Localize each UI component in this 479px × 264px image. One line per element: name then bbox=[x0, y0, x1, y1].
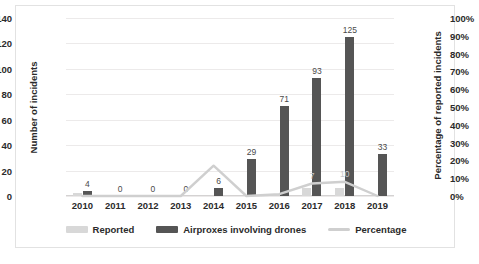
legend-label: Percentage bbox=[355, 224, 406, 235]
x-axis-tick-label: 2017 bbox=[296, 200, 329, 211]
legend-item[interactable]: Percentage bbox=[328, 224, 406, 235]
chart-frame: Number of incidents Percentage of report… bbox=[15, 5, 455, 248]
y-axis-left-tick: 40 bbox=[0, 140, 12, 151]
x-axis-tick-label: 2013 bbox=[164, 200, 197, 211]
x-axis-tick-label: 2011 bbox=[99, 200, 132, 211]
y-axis-right-tick: 20% bbox=[450, 155, 479, 166]
y-axis-right-tick: 90% bbox=[450, 30, 479, 41]
y-axis-left-tick: 140 bbox=[0, 13, 12, 24]
x-axis-tick-label: 2019 bbox=[361, 200, 394, 211]
y-axis-right-tick: 80% bbox=[450, 48, 479, 59]
y-axis-left-tick: 120 bbox=[0, 38, 12, 49]
y-axis-left-tick: 20 bbox=[0, 165, 12, 176]
x-axis-tick-label: 2010 bbox=[66, 200, 99, 211]
legend-line-swatch bbox=[328, 228, 350, 231]
chart-legend: ReportedAirproxes involving dronesPercen… bbox=[66, 221, 406, 237]
plot-area: 0204060801001201400%10%20%30%40%50%60%70… bbox=[66, 18, 394, 196]
y-axis-left-tick: 80 bbox=[0, 89, 12, 100]
legend-bar-swatch bbox=[156, 226, 178, 233]
legend-bar-swatch bbox=[66, 226, 88, 233]
x-axis-tick-label: 2016 bbox=[263, 200, 296, 211]
y-axis-right-tick: 40% bbox=[450, 119, 479, 130]
legend-label: Airproxes involving drones bbox=[183, 224, 306, 235]
y-axis-left-tick: 60 bbox=[0, 114, 12, 125]
y-axis-right-tick: 0% bbox=[450, 191, 479, 202]
y-axis-right-tick: 50% bbox=[450, 102, 479, 113]
percentage-line-series bbox=[66, 18, 394, 196]
y-axis-left-tick: 0 bbox=[0, 191, 12, 202]
x-axis-tick-label: 2014 bbox=[197, 200, 230, 211]
y-axis-left-title: Number of incidents bbox=[28, 48, 39, 168]
y-axis-left-tick: 100 bbox=[0, 63, 12, 74]
x-axis-tick-label: 2018 bbox=[328, 200, 361, 211]
y-axis-right-tick: 100% bbox=[450, 13, 479, 24]
legend-item[interactable]: Airproxes involving drones bbox=[156, 224, 306, 235]
y-axis-right-tick: 70% bbox=[450, 66, 479, 77]
percentage-line-path bbox=[82, 166, 377, 196]
x-axis-tick-label: 2012 bbox=[132, 200, 165, 211]
y-axis-right-title: Percentage of reported incidents bbox=[432, 26, 443, 186]
legend-item[interactable]: Reported bbox=[66, 224, 135, 235]
x-axis-tick-label: 2015 bbox=[230, 200, 263, 211]
y-axis-right-tick: 60% bbox=[450, 84, 479, 95]
y-axis-right-tick: 10% bbox=[450, 173, 479, 184]
legend-label: Reported bbox=[93, 224, 135, 235]
y-axis-right-tick: 30% bbox=[450, 137, 479, 148]
